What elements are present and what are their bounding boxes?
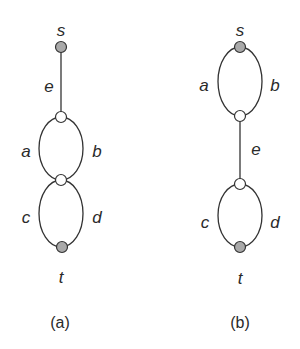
edge-b-cd-loop	[218, 184, 262, 247]
node-b-v1	[235, 111, 246, 122]
label-b-s: s	[236, 21, 245, 40]
label-b-c: c	[201, 213, 210, 232]
label-a-a: a	[21, 142, 30, 161]
edge-a-ab-loop	[39, 117, 83, 180]
label-a-s: s	[57, 21, 66, 40]
node-a-u1	[56, 112, 67, 123]
edge-b-ab-loop	[218, 47, 262, 116]
label-b-e: e	[251, 140, 260, 159]
caption-b: (b)	[230, 314, 250, 331]
panel-a: s e a b c d t (a)	[21, 21, 102, 331]
node-a-t	[57, 242, 68, 253]
label-a-b: b	[92, 142, 101, 161]
label-b-b: b	[270, 76, 279, 95]
label-a-t: t	[59, 268, 65, 287]
panel-b: s a b e c d t (b)	[199, 21, 280, 331]
node-a-u2	[56, 175, 67, 186]
edge-a-cd-loop	[39, 180, 83, 247]
node-b-v2	[235, 179, 246, 190]
node-b-t	[235, 242, 246, 253]
node-b-s	[235, 42, 246, 53]
series-parallel-graphs-figure: s e a b c d t (a) s a b e c d t (b)	[0, 0, 300, 349]
node-a-s	[56, 42, 67, 53]
label-b-d: d	[270, 213, 280, 232]
label-a-d: d	[92, 208, 102, 227]
caption-a: (a)	[50, 314, 70, 331]
label-a-c: c	[22, 208, 31, 227]
label-b-t: t	[238, 269, 244, 288]
label-b-a: a	[199, 76, 208, 95]
label-a-e: e	[44, 77, 53, 96]
